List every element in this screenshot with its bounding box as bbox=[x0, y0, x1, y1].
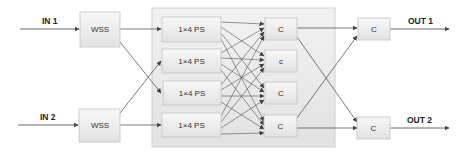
wss-block-2: WSS bbox=[79, 109, 120, 142]
splitter-label-2: 1×4 PS bbox=[178, 57, 204, 66]
wss-block-1: WSS bbox=[80, 12, 120, 47]
power-splitter-4: 1×4 PS bbox=[162, 113, 221, 137]
power-splitter-3: 1×4 PS bbox=[163, 81, 221, 105]
output-label-1: OUT 1 bbox=[408, 16, 433, 26]
input-label-1: IN 1 bbox=[42, 16, 58, 26]
coupler-middle-1: C bbox=[265, 18, 297, 40]
coupler-middle-4: C bbox=[264, 115, 297, 137]
splitter-label-4: 1×4 PS bbox=[178, 121, 204, 130]
power-splitter-1: 1×4 PS bbox=[162, 17, 221, 42]
optical-switch-diagram: IN 1 IN 2 OUT 1 OUT 2 WSS WSS 1×4 PS 1×4… bbox=[0, 0, 466, 155]
input-label-2: IN 2 bbox=[40, 112, 56, 122]
output-label-2: OUT 2 bbox=[407, 115, 432, 125]
coupler-output-label-1: C bbox=[371, 25, 377, 34]
coupler-middle-label-4: C bbox=[278, 122, 284, 131]
coupler-output-1: C bbox=[358, 18, 390, 40]
coupler-output-label-2: C bbox=[371, 124, 377, 133]
coupler-middle-label-1: C bbox=[278, 25, 284, 34]
coupler-middle-3: C bbox=[265, 82, 297, 104]
coupler-middle-2: c bbox=[265, 50, 297, 72]
power-splitter-2: 1×4 PS bbox=[162, 49, 221, 73]
coupler-output-2: C bbox=[357, 117, 390, 139]
wss-label-2: WSS bbox=[91, 121, 109, 130]
coupler-middle-label-3: C bbox=[278, 89, 284, 98]
coupler-middle-label-2: c bbox=[279, 57, 283, 66]
splitter-label-1: 1×4 PS bbox=[178, 25, 204, 34]
wss-label-1: WSS bbox=[91, 25, 109, 34]
splitter-label-3: 1×4 PS bbox=[179, 89, 205, 98]
